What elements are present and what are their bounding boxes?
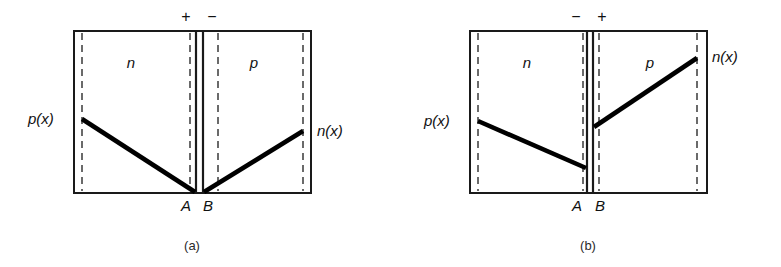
- panel-a-polarity-left: +: [181, 8, 190, 25]
- panel-a-nx-label: n(x): [317, 122, 343, 139]
- panel-a-point-a-label: A: [180, 197, 191, 214]
- panel-b-polarity-left: −: [571, 8, 580, 25]
- panel-b-point-b-label: B: [595, 197, 605, 214]
- panel-a-region-n-label: n: [127, 54, 135, 71]
- panel-a-hole-density-curve: [82, 119, 195, 192]
- pn-junction-figure: + − n p p(x) n(x) A B (a) − + n p: [0, 0, 781, 267]
- panel-b: − + n p p(x) n(x) A B (b): [423, 8, 738, 253]
- panel-b-region-n-label: n: [523, 54, 531, 71]
- panel-b-polarity-right: +: [597, 8, 606, 25]
- panel-a-region-p-label: p: [249, 54, 258, 71]
- figure-canvas: + − n p p(x) n(x) A B (a) − + n p: [0, 0, 781, 267]
- panel-b-region-p-label: p: [645, 54, 654, 71]
- panel-b-caption: (b): [580, 238, 596, 253]
- panel-a: + − n p p(x) n(x) A B (a): [27, 8, 343, 253]
- panel-a-point-b-label: B: [203, 197, 213, 214]
- panel-a-frame: [74, 31, 311, 193]
- panel-b-point-a-label: A: [571, 197, 582, 214]
- panel-b-frame: [470, 31, 707, 193]
- panel-b-px-label: p(x): [423, 112, 450, 129]
- panel-a-electron-density-curve: [204, 131, 303, 192]
- panel-a-polarity-right: −: [207, 8, 216, 25]
- panel-a-px-label: p(x): [27, 110, 54, 127]
- panel-a-caption: (a): [184, 238, 200, 253]
- panel-b-nx-label: n(x): [712, 48, 738, 65]
- panel-b-hole-density-curve: [478, 121, 586, 168]
